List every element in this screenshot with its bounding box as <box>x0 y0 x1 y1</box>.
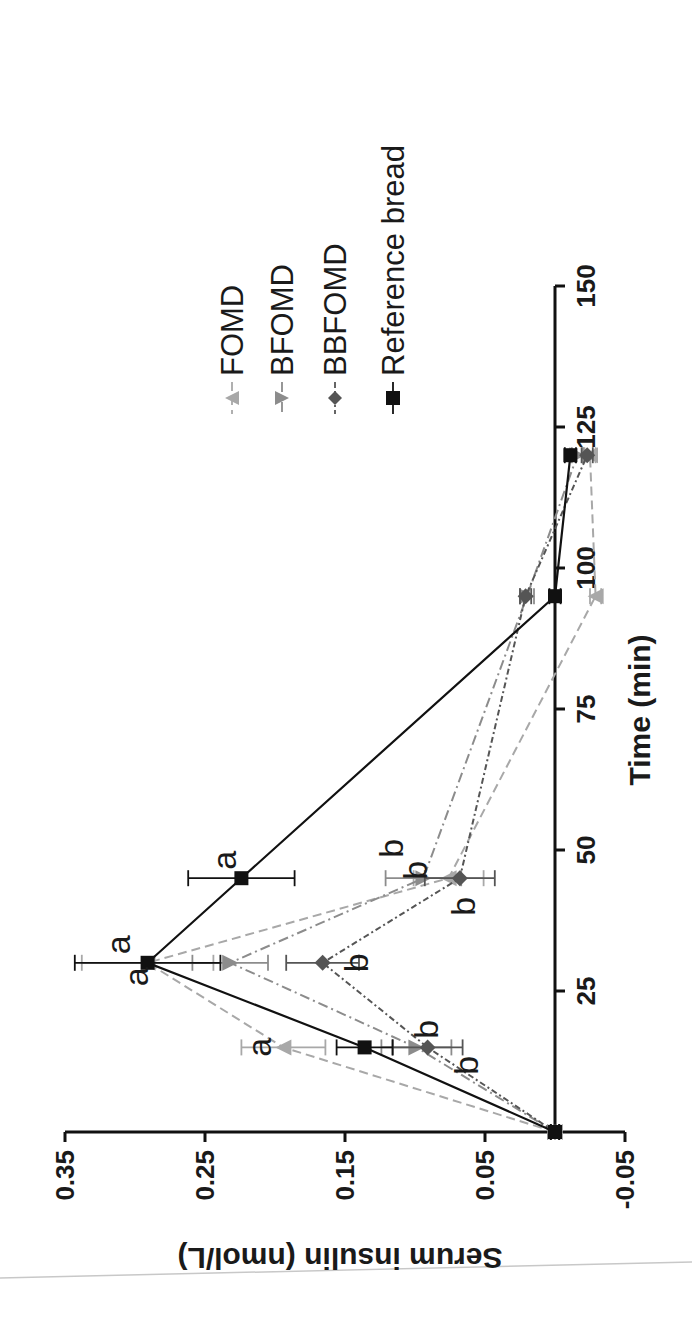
significance-letter: b <box>407 1020 445 1039</box>
diamond-marker-icon <box>420 1039 436 1055</box>
significance-letter: a <box>205 851 243 870</box>
series-fomd <box>82 447 604 1140</box>
y-tick-label: 0.25 <box>190 1150 220 1201</box>
significance-letter: a <box>240 1038 278 1057</box>
significance-letter: a <box>117 967 155 986</box>
x-tick-label: 75 <box>571 695 601 724</box>
y-tick-label: -0.05 <box>610 1150 640 1209</box>
x-tick-label: 50 <box>571 836 601 865</box>
y-tick-label: 0.15 <box>330 1150 360 1201</box>
legend-item-bfomd: BFOMD <box>265 264 300 414</box>
legend-item-reference-bread: Reference bread <box>376 145 411 414</box>
insulin-chart: -0.050.050.150.250.35255075100125150 aab… <box>0 0 692 1330</box>
legend-label: FOMD <box>215 285 250 376</box>
x-tick-label: 100 <box>571 546 601 589</box>
y-tick-label: 0.05 <box>470 1150 500 1201</box>
significance-letter: b <box>372 839 410 858</box>
series-reference-bread <box>75 447 578 1140</box>
x-tick-label: 150 <box>571 264 601 307</box>
series-line <box>230 455 577 1132</box>
series-layer: aabbbbbbaa <box>75 447 604 1140</box>
series-line <box>148 455 596 1132</box>
series-bfomd <box>192 447 585 1140</box>
square-marker-icon <box>548 1125 562 1139</box>
legend-item-bbfomd: BBFOMD <box>318 243 353 414</box>
square-marker-icon <box>563 448 577 462</box>
square-marker-icon <box>358 1040 372 1054</box>
triangle-down-marker-icon <box>222 955 238 971</box>
significance-letter: b <box>396 861 434 880</box>
y-axis-title: Serum insulin (nmol/L) <box>177 1242 502 1275</box>
x-tick-label: 125 <box>571 405 601 448</box>
square-marker-icon <box>548 589 562 603</box>
x-tick-label: 25 <box>571 977 601 1006</box>
significance-letters: aabbbbbbaa <box>99 839 485 1075</box>
legend-label: Reference bread <box>376 145 411 376</box>
legend-item-fomd: FOMD <box>215 285 250 414</box>
diamond-marker-icon <box>315 955 331 971</box>
significance-letter: b <box>444 897 482 916</box>
legend-label: BBFOMD <box>318 243 353 376</box>
legend-label: BFOMD <box>265 264 300 376</box>
legend: FOMDBFOMDBBFOMDReference bread <box>215 145 411 414</box>
square-marker-icon <box>234 871 248 885</box>
series-line <box>148 455 571 1132</box>
square-marker-icon <box>386 391 400 405</box>
significance-letter: a <box>99 935 137 954</box>
y-tick-label: 0.35 <box>50 1150 80 1201</box>
x-axis-title: Time (min) <box>623 634 656 785</box>
significance-letter: b <box>447 1056 485 1075</box>
axes: -0.050.050.150.250.35255075100125150 <box>50 264 640 1209</box>
significance-letter: b <box>337 953 375 972</box>
diamond-marker-icon <box>328 391 342 405</box>
